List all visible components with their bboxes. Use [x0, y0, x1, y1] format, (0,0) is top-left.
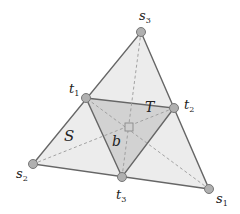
vertex-s1 — [205, 185, 214, 194]
label-s2: s2 — [16, 166, 28, 183]
label-s3: s3 — [139, 8, 151, 25]
vertex-t2 — [170, 104, 179, 113]
label-S: S — [64, 127, 74, 145]
simplex-subdivision-diagram: s3 t1 t2 s2 t3 s1 b S T — [0, 0, 240, 214]
label-s1: s1 — [216, 191, 228, 208]
center-point-b — [125, 123, 133, 131]
vertex-s3 — [137, 28, 146, 37]
vertex-s2 — [29, 160, 38, 169]
label-t3: t3 — [116, 187, 126, 204]
label-b: b — [112, 133, 121, 149]
label-t1: t1 — [69, 81, 79, 98]
vertex-t1 — [82, 94, 91, 103]
vertex-t3 — [118, 173, 127, 182]
label-t2: t2 — [184, 97, 194, 114]
